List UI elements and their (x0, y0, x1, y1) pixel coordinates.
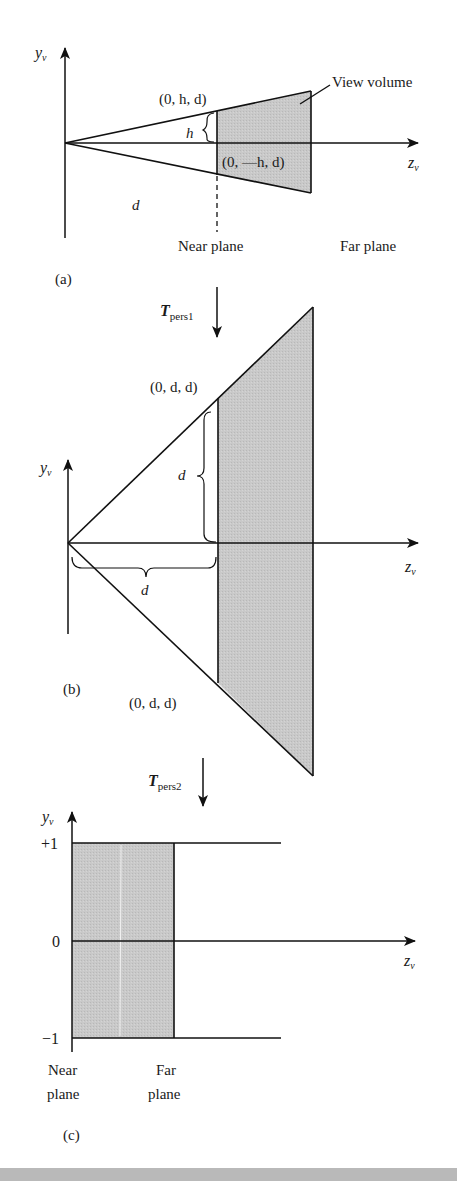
d-vertical-label: d (178, 467, 186, 483)
bottom-point-label: (0, d, d) (129, 695, 177, 712)
h-label: h (186, 125, 194, 141)
z-axis-label: zv (407, 154, 419, 173)
near-plane-label: Near plane (178, 238, 244, 254)
y-axis-label: yv (33, 44, 47, 63)
panel-c: Tpers2 yv zv +1 0 −1 Near plane Far plan… (40, 758, 415, 1144)
tick-zero: 0 (52, 933, 60, 950)
tick-plus-one: +1 (41, 835, 58, 852)
near-plane-label-line2: plane (47, 1086, 80, 1102)
d-horizontal-label: d (141, 582, 149, 598)
d-vertical-brace-icon (197, 412, 216, 542)
caption-a: (a) (55, 271, 72, 288)
caption-c: (c) (63, 1127, 80, 1144)
far-plane-label-line1: Far (156, 1062, 176, 1078)
view-volume-label: View volume (332, 74, 413, 90)
page-footer-bar (0, 1168, 457, 1181)
view-volume-region (218, 307, 313, 776)
z-axis-label: zv (403, 952, 415, 971)
far-plane-label-line2: plane (148, 1086, 181, 1102)
transform-label-2: Tpers2 (148, 772, 182, 792)
tick-minus-one: −1 (42, 1030, 59, 1047)
view-volume-region (217, 91, 311, 193)
bottom-point-label: (0, —h, d) (222, 154, 285, 171)
y-axis-label: yv (40, 808, 54, 827)
h-brace-icon (203, 113, 214, 142)
y-axis-label: yv (38, 459, 52, 478)
panel-a: yv zv (0, h, d) (0, —h, d) h d View volu… (33, 44, 419, 288)
d-label: d (132, 197, 140, 213)
z-axis-label: zv (404, 558, 416, 577)
transform-label-1: Tpers1 (160, 302, 194, 322)
near-plane-label-line1: Near (48, 1062, 77, 1078)
panel-b: Tpers1 yv zv (0, d, d) d d (0, d, d) (b) (38, 287, 418, 776)
caption-b: (b) (63, 681, 81, 698)
perspective-transform-diagram: yv zv (0, h, d) (0, —h, d) h d View volu… (0, 0, 457, 1181)
top-point-label: (0, d, d) (150, 379, 198, 396)
top-point-label: (0, h, d) (159, 91, 207, 108)
far-plane-label: Far plane (340, 238, 397, 254)
